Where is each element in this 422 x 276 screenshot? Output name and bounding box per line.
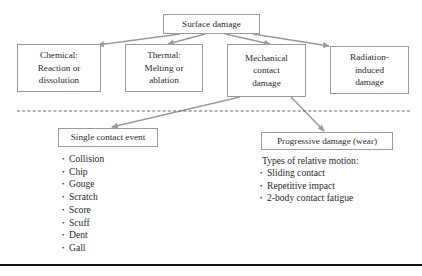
node-thermal: Thermal: Melting or ablation (125, 44, 203, 92)
progressive-list: Sliding contact Repetitive impact 2-body… (260, 167, 353, 205)
list-item: Repetitive impact (260, 180, 353, 193)
node-label: Radiation- induced damage (350, 51, 389, 89)
arrow-mechanical-to-single (112, 97, 240, 127)
progressive-caption: Types of relative motion: (262, 155, 359, 168)
node-label: Chemical: Reaction or dissolution (38, 49, 81, 87)
node-label: Progressive damage (wear) (277, 135, 377, 148)
list-item: Scratch (62, 191, 104, 204)
list-item: Sliding contact (260, 167, 353, 180)
list-item: Gall (62, 242, 104, 255)
list-item: Collision (62, 153, 104, 166)
list-item: Scuff (62, 217, 104, 230)
node-label: Single contact event (71, 131, 146, 144)
list-item: 2-body contact fatigue (260, 192, 353, 205)
list-item: Chip (62, 166, 104, 179)
node-single-contact-event: Single contact event (58, 128, 158, 147)
list-item: Dent (62, 229, 104, 242)
arrow-mechanical-to-progressive (291, 97, 324, 131)
node-label: Surface damage (182, 18, 241, 31)
list-item: Gouge (62, 178, 104, 191)
node-progressive-damage: Progressive damage (wear) (261, 132, 393, 150)
node-mechanical: Mechanical contact damage (227, 44, 306, 97)
list-item: Score (62, 204, 104, 217)
node-label: Thermal: Melting or ablation (144, 49, 183, 87)
node-radiation: Radiation- induced damage (330, 46, 409, 94)
node-label: Mechanical contact damage (245, 52, 288, 90)
single-contact-list: Collision Chip Gouge Scratch Score Scuff… (62, 153, 104, 255)
bottom-rule (0, 264, 422, 266)
node-surface-damage: Surface damage (163, 14, 260, 34)
node-chemical: Chemical: Reaction or dissolution (17, 44, 101, 92)
